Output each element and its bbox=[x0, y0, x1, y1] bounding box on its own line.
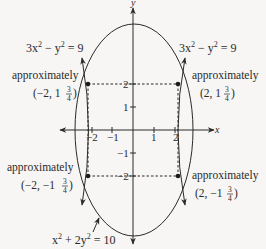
svg-text:3: 3 bbox=[228, 185, 232, 194]
annotation-upper-left: approximately (−2, 1 3 4 ) bbox=[12, 69, 79, 103]
x-axis-label: x bbox=[214, 124, 220, 135]
intersection-point-upper-right bbox=[176, 82, 181, 87]
hyperbola-right-branch bbox=[178, 58, 185, 205]
svg-text:(2, 1: (2, 1 bbox=[200, 87, 221, 100]
svg-text:): ) bbox=[231, 87, 235, 100]
intersection-point-lower-left bbox=[86, 174, 91, 179]
x-tick-label-neg1: −1 bbox=[107, 131, 119, 143]
ellipse-equation-pointer bbox=[93, 218, 99, 232]
svg-text:4: 4 bbox=[67, 94, 71, 103]
annotation-lower-right: approximately (2, −1 3 4 ) bbox=[192, 169, 259, 203]
intersection-point-lower-right bbox=[176, 174, 181, 179]
svg-text:(−2, −1: (−2, −1 bbox=[21, 179, 55, 192]
x-tick-label-1: 1 bbox=[151, 131, 157, 143]
intersection-point-upper-left bbox=[86, 82, 91, 87]
svg-text:approximately: approximately bbox=[192, 69, 259, 82]
svg-text:approximately: approximately bbox=[192, 169, 259, 182]
y-tick-label-1: 1 bbox=[123, 101, 129, 113]
svg-text:3: 3 bbox=[63, 177, 67, 186]
y-tick-label-neg1: −1 bbox=[117, 147, 129, 159]
y-tick-label-neg2: −2 bbox=[117, 170, 129, 182]
svg-text:): ) bbox=[69, 179, 73, 192]
equation-hyperbola-right: 3x2 − y2 = 9 bbox=[179, 40, 237, 55]
svg-text:4: 4 bbox=[228, 194, 232, 203]
x-tick-label-neg2: −2 bbox=[86, 131, 98, 143]
svg-text:4: 4 bbox=[63, 186, 67, 195]
svg-text:): ) bbox=[73, 87, 77, 100]
svg-text:4: 4 bbox=[225, 94, 229, 103]
annotation-lower-left: approximately (−2, −1 3 4 ) bbox=[7, 161, 74, 195]
y-axis-label: y bbox=[130, 0, 136, 8]
svg-text:(2, −1: (2, −1 bbox=[195, 187, 223, 200]
svg-text:approximately: approximately bbox=[7, 161, 74, 174]
svg-text:(−2, 1: (−2, 1 bbox=[33, 87, 61, 100]
annotation-upper-right: approximately (2, 1 3 4 ) bbox=[192, 69, 259, 103]
svg-text:3: 3 bbox=[67, 85, 71, 94]
equation-ellipse: x2 + 2y2 = 10 bbox=[52, 232, 116, 247]
svg-text:): ) bbox=[234, 187, 238, 200]
diagram-canvas: x y −2 −1 1 2 2 1 −1 −2 3x2 − y2 = 9 3x2… bbox=[0, 0, 266, 249]
equation-hyperbola-left: 3x2 − y2 = 9 bbox=[26, 40, 84, 55]
svg-text:3: 3 bbox=[225, 85, 229, 94]
svg-text:approximately: approximately bbox=[12, 69, 79, 82]
